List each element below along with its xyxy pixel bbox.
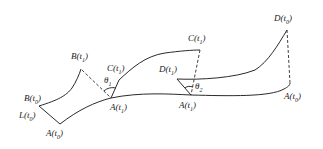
label-d-t1: D(t1)	[159, 65, 177, 76]
segment-a-t1-to-c-t1	[111, 80, 119, 98]
label-a-t0-right: A(t0)	[284, 92, 301, 103]
segment-d-t1-to-a-t1	[177, 79, 191, 95]
base-curve-a	[60, 83, 290, 124]
segment-b-t0-to-a-t0	[39, 106, 60, 124]
label-d-t0: D(t0)	[274, 14, 292, 25]
label-theta2: θ2	[195, 82, 202, 93]
label-b-t0: B(t0)	[24, 94, 41, 105]
label-a-t0-left: A(t0)	[46, 129, 63, 140]
dashed-d-t0-to-a-t0	[287, 30, 290, 83]
label-a-t1-left: A(t1)	[110, 103, 127, 114]
label-b-t1: B(t1)	[71, 52, 88, 63]
label-theta1: θ1	[104, 76, 111, 87]
label-l-t0: L(t0)	[19, 111, 36, 122]
curve-b-t0-to-b-t1	[39, 69, 81, 106]
label-c-t1-right: C(t1)	[188, 34, 206, 45]
angle-arc-theta2	[185, 86, 193, 88]
label-c-t1-left: C(t1)	[107, 64, 125, 75]
label-a-t1-right: A(t1)	[179, 101, 196, 112]
